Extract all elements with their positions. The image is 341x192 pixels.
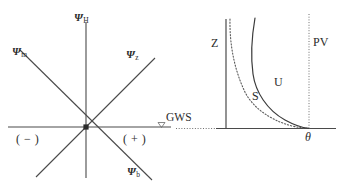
origin-point [83, 124, 88, 129]
label-curve-u: U [274, 76, 283, 88]
label-psi-b: Ψb [127, 166, 140, 177]
label-sign-negative: ( − ) [16, 133, 39, 145]
curve-s [230, 19, 309, 128]
right-panel-plot [176, 14, 336, 129]
label-psi-h: ΨH [74, 12, 88, 23]
label-pv-line: PV [313, 36, 328, 48]
label-psi-z: Ψz [126, 49, 138, 60]
label-sign-positive: ( + ) [123, 133, 146, 145]
label-curve-s: S [252, 90, 259, 102]
figure-root: ΨH Ψm Ψz Ψb ( − ) ( + ) GWS Z PV S U θ [0, 0, 341, 192]
curve-u [252, 18, 309, 128]
figure-vector-layer [0, 0, 341, 192]
label-theta: θ [305, 131, 311, 143]
label-z-axis: Z [211, 37, 218, 49]
label-gws: GWS [166, 112, 192, 124]
diagonal-axis-psi-z [36, 58, 155, 177]
label-psi-m: Ψm [12, 46, 27, 57]
left-panel-axes [8, 22, 171, 180]
